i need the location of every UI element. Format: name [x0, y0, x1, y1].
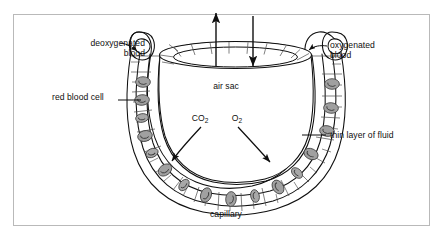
- label-red-blood-cell: red blood cell: [52, 92, 144, 102]
- air-sac-rim-inner: [174, 47, 298, 67]
- label-thin-layer-of-fluid: thin layer of fluid: [330, 130, 430, 140]
- co2-subscript: 2: [205, 117, 209, 124]
- oxygenated-leader: [309, 46, 327, 50]
- co2-text: CO: [192, 113, 205, 123]
- o2-text: O: [232, 113, 239, 123]
- label-oxygen: O2: [222, 113, 252, 126]
- o2-subscript: 2: [239, 117, 243, 124]
- label-oxygenated-blood: oxygenated blood: [330, 40, 430, 61]
- label-carbon-dioxide: CO2: [183, 113, 217, 126]
- label-deoxygenated-blood-line2: blood: [48, 48, 145, 58]
- label-capillary: capillary: [191, 209, 261, 219]
- label-deoxygenated-blood-line1: deoxygenated: [48, 38, 145, 48]
- label-deoxygenated-blood: deoxygenated blood: [48, 38, 145, 59]
- label-air-sac: air sac: [196, 81, 256, 91]
- label-oxygenated-blood-line1: oxygenated: [330, 40, 430, 50]
- figure-container: deoxygenated blood oxygenated blood red …: [0, 0, 445, 241]
- label-oxygenated-blood-line2: blood: [330, 50, 430, 60]
